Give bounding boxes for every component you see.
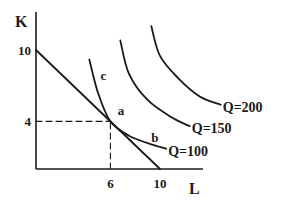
point-label-b: b bbox=[151, 130, 158, 145]
curve-labels: Q=100Q=150Q=200 bbox=[168, 100, 262, 159]
annotations: abc bbox=[100, 68, 158, 145]
x-axis-label: L bbox=[189, 180, 200, 197]
x-tick-label: 10 bbox=[154, 176, 167, 191]
y-tick-label: 4 bbox=[25, 114, 32, 129]
curve-q-200 bbox=[151, 26, 220, 105]
isoquant-chart: K L 610410 Q=100Q=150Q=200 abc bbox=[0, 0, 286, 204]
curve-label-q-200: Q=200 bbox=[223, 100, 263, 115]
point-label-c: c bbox=[100, 68, 106, 83]
y-axis-label: K bbox=[15, 13, 28, 30]
curve-label-q-150: Q=150 bbox=[192, 121, 232, 136]
point-label-a: a bbox=[118, 103, 125, 118]
axes: K L bbox=[15, 12, 203, 197]
y-tick-label: 10 bbox=[18, 43, 31, 58]
curve-isocost bbox=[36, 50, 160, 169]
curve-label-q-100: Q=100 bbox=[168, 144, 208, 159]
x-tick-label: 6 bbox=[107, 176, 114, 191]
curve-q-150 bbox=[120, 40, 189, 126]
